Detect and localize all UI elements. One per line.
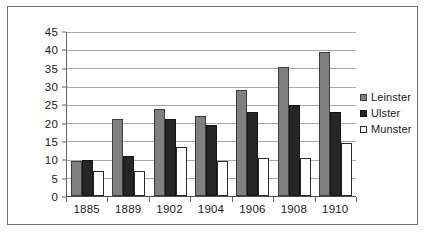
bar-munster-1885: [93, 171, 104, 197]
bar-leinster-1889: [112, 119, 123, 196]
x-axis-tick-label: 1910: [315, 203, 356, 215]
legend-item-munster: Munster: [360, 121, 420, 137]
bar-ulster-1910: [330, 112, 341, 196]
bar-munster-1910: [341, 143, 352, 196]
bar-ulster-1906: [247, 112, 258, 196]
chart-frame: 051015202530354045 188518891902190419061…: [7, 6, 418, 225]
legend-label: Munster: [371, 123, 411, 135]
bar-ulster-1885: [82, 160, 93, 196]
bar-leinster-1908: [278, 67, 289, 196]
x-axis-tick-label: 1906: [232, 203, 273, 215]
bar-group-1906: [232, 32, 273, 196]
y-axis-tick-label: 0: [51, 191, 58, 203]
bar-group-1904: [191, 32, 232, 196]
legend-swatch-icon: [360, 126, 367, 133]
y-axis-tick-label: 5: [51, 173, 58, 185]
x-axis-tick-label: 1904: [190, 203, 231, 215]
legend-swatch-icon: [360, 110, 367, 117]
bar-groups: [67, 32, 356, 196]
legend-item-ulster: Ulster: [360, 105, 420, 121]
x-axis-tick-label: 1902: [149, 203, 190, 215]
x-tickmark: [273, 197, 274, 202]
bar-munster-1904: [217, 161, 228, 196]
bar-leinster-1902: [154, 109, 165, 196]
legend-label: Ulster: [371, 107, 400, 119]
legend-item-leinster: Leinster: [360, 89, 420, 105]
x-tickmark: [190, 197, 191, 202]
y-axis-tick-label: 30: [45, 81, 58, 93]
bar-munster-1908: [300, 158, 311, 196]
x-tickmark: [66, 197, 67, 202]
x-axis-tick-label: 1889: [107, 203, 148, 215]
y-axis-tick-label: 15: [45, 136, 58, 148]
bar-leinster-1910: [319, 52, 330, 196]
legend-swatch-icon: [360, 94, 367, 101]
y-axis: 051015202530354045: [8, 32, 66, 197]
bar-group-1910: [315, 32, 356, 196]
bar-ulster-1889: [123, 156, 134, 196]
y-axis-tick-label: 20: [45, 118, 58, 130]
bar-group-1908: [273, 32, 314, 196]
x-tickmark: [315, 197, 316, 202]
bar-munster-1889: [134, 171, 145, 197]
chart-legend: LeinsterUlsterMunster: [360, 89, 420, 137]
x-tickmark: [107, 197, 108, 202]
y-axis-tick-label: 35: [45, 63, 58, 75]
bar-group-1889: [108, 32, 149, 196]
bar-ulster-1902: [165, 119, 176, 196]
bar-group-1885: [67, 32, 108, 196]
bar-leinster-1885: [71, 161, 82, 196]
chart-screenshot: 051015202530354045 188518891902190419061…: [0, 0, 426, 239]
bar-group-1902: [150, 32, 191, 196]
y-axis-tick-label: 45: [45, 26, 58, 38]
x-tickmark: [356, 197, 357, 202]
bar-munster-1902: [176, 147, 187, 196]
plot-area: [66, 32, 356, 197]
x-tickmarks: [66, 197, 356, 202]
bar-leinster-1904: [195, 116, 206, 196]
y-axis-tick-label: 10: [45, 154, 58, 166]
x-axis-tick-label: 1908: [273, 203, 314, 215]
bar-munster-1906: [258, 158, 269, 196]
bar-ulster-1904: [206, 125, 217, 196]
y-axis-tick-label: 40: [45, 44, 58, 56]
bar-leinster-1906: [236, 90, 247, 196]
x-axis-tick-label: 1885: [66, 203, 107, 215]
legend-label: Leinster: [371, 91, 411, 103]
x-axis-labels: 1885188919021904190619081910: [66, 203, 356, 215]
x-tickmark: [232, 197, 233, 202]
x-axis: 1885188919021904190619081910: [66, 197, 356, 225]
bar-ulster-1908: [289, 105, 300, 196]
x-tickmark: [149, 197, 150, 202]
y-axis-tick-label: 25: [45, 99, 58, 111]
